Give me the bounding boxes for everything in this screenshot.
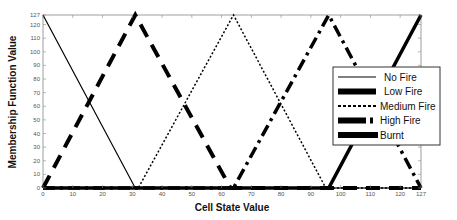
y-tick-label: 80 — [33, 76, 40, 82]
y-tick-label: 127 — [30, 12, 41, 18]
x-tick-label: 0 — [41, 191, 45, 197]
x-tick-label: 80 — [278, 191, 285, 197]
x-tick-label: 50 — [188, 191, 195, 197]
legend: No FireLow FireMedium FireHigh FireBurnt — [333, 67, 440, 145]
membership-function-chart: 0102030405060708090100110120127 01020304… — [0, 0, 457, 220]
x-tick-label: 70 — [248, 191, 255, 197]
y-tick-label: 90 — [33, 62, 40, 68]
y-tick-label: 120 — [30, 22, 41, 28]
y-tick-label: 40 — [33, 131, 40, 137]
y-tick-label: 20 — [33, 158, 40, 164]
y-tick-label: 60 — [33, 103, 40, 109]
y-tick-label: 70 — [33, 90, 40, 96]
x-tick-label: 127 — [416, 191, 427, 197]
x-tick-label: 100 — [336, 191, 347, 197]
y-tick-label: 30 — [33, 144, 40, 150]
y-tick-label: 0 — [37, 185, 41, 191]
x-tick-label: 40 — [159, 191, 166, 197]
y-tick-label: 100 — [30, 49, 41, 55]
x-tick-label: 120 — [395, 191, 406, 197]
legend-label: Medium Fire — [380, 101, 436, 112]
x-axis-label: Cell State Value — [195, 202, 270, 213]
x-tick-label: 60 — [218, 191, 225, 197]
x-tick-label: 10 — [69, 191, 76, 197]
legend-label: High Fire — [380, 115, 421, 126]
x-tick-label: 110 — [366, 191, 376, 197]
legend-label: Low Fire — [384, 86, 423, 97]
x-tick-label: 20 — [99, 191, 106, 197]
y-axis-label: Membership Function Value — [7, 35, 18, 168]
y-tick-label: 110 — [30, 35, 40, 41]
y-tick-label: 10 — [33, 171, 40, 177]
y-tick-label: 50 — [33, 117, 40, 123]
legend-label: Burnt — [380, 130, 404, 141]
legend-label: No Fire — [384, 72, 417, 83]
x-tick-label: 90 — [308, 191, 315, 197]
x-tick-label: 30 — [129, 191, 136, 197]
